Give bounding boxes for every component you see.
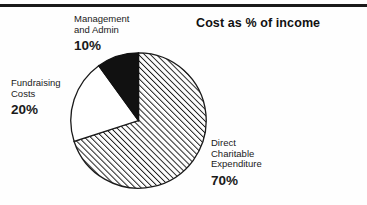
top-divider-rule — [0, 4, 367, 7]
slice-label-line2: Costs — [11, 89, 61, 100]
slice-value-fundraising-costs: 20% — [11, 101, 61, 118]
pie-chart-graphic — [70, 52, 207, 189]
slice-label-direct-charitable-expenditure: Direct Charitable Expenditure 70% — [211, 138, 262, 189]
slice-value-management-and-admin: 10% — [74, 37, 129, 54]
slice-label-line1: Direct — [211, 138, 262, 149]
slice-label-line1: Fundraising — [11, 78, 61, 89]
slice-label-line3: Expenditure — [211, 159, 262, 170]
slice-value-direct-charitable-expenditure: 70% — [211, 172, 262, 189]
pie-svg — [70, 52, 207, 189]
slice-label-management-and-admin: Management and Admin 10% — [74, 14, 129, 54]
chart-title: Cost as % of income — [196, 16, 320, 30]
pie-chart-figure: Cost as % of income Management and Admin… — [0, 0, 367, 205]
slice-label-fundraising-costs: Fundraising Costs 20% — [11, 78, 61, 118]
slice-label-line2: and Admin — [74, 25, 129, 36]
slice-label-line1: Management — [74, 14, 129, 25]
